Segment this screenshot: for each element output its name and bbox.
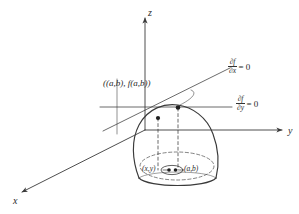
fraction-denominator: ∂y: [236, 103, 245, 112]
equals-zero-y: = 0: [245, 100, 258, 109]
axis-label-z: z: [148, 8, 152, 18]
apex-dot: [176, 105, 181, 110]
base-dot-xy: [167, 168, 171, 172]
x-axis: [22, 130, 145, 192]
fraction-numerator: ∂f: [236, 95, 245, 103]
surface-base-front: [139, 178, 216, 186]
surface-dot: [156, 116, 160, 120]
annotation-partial-x: ∂f ∂x = 0: [228, 58, 250, 76]
fraction-denominator: ∂x: [228, 66, 237, 75]
label-base-point-ab: (a,b): [184, 165, 198, 173]
equals-zero-x: = 0: [237, 63, 250, 72]
axis-label-y: y: [288, 126, 292, 136]
figure-canvas: z y x ∂f ∂x = 0 ∂f ∂y = 0 ((a,b), f(a,b)…: [0, 0, 299, 214]
fraction-numerator: ∂f: [228, 58, 237, 66]
label-base-point-xy: (x,y): [142, 165, 156, 173]
fraction-partial-y: ∂f ∂y: [236, 95, 245, 112]
fraction-partial-x: ∂f ∂x: [228, 58, 237, 75]
axis-label-x: x: [13, 196, 17, 206]
base-dot-ab: [174, 168, 178, 172]
leader-surface-point: [180, 90, 194, 105]
annotation-partial-y: ∂f ∂y = 0: [236, 95, 258, 113]
label-surface-point: ((a,b), f(a,b)): [103, 79, 150, 88]
